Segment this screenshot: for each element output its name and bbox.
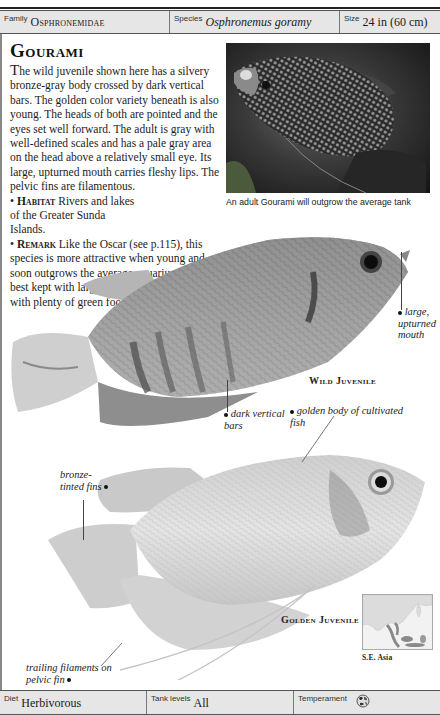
annotation-mouth: large, upturned mouth [398, 306, 440, 341]
tank-levels-label: Tank levels [151, 694, 191, 703]
size-label: Size [344, 14, 360, 23]
annotation-dot [67, 678, 71, 682]
left-rule [0, 10, 2, 715]
tank-levels-value: All [194, 696, 209, 711]
species-info-bar: Family Osphronemidae Species Osphronemus… [0, 10, 440, 34]
care-info-bar: Diet Herbivorous Tank levels All Tempera… [0, 690, 440, 715]
species-cell: Species Osphronemus goramy [170, 11, 340, 33]
temperament-mixed-icon [356, 694, 370, 708]
intro-paragraph: The wild juvenile shown here has a silve… [10, 63, 222, 194]
family-label: Family [4, 14, 28, 23]
habitat-heading: Habitat [17, 195, 55, 207]
annotation-bronze-fins: bronze-tinted fins [60, 469, 110, 492]
golden-juvenile-label: Golden Juvenile [281, 614, 359, 626]
annotation-dot [224, 413, 228, 417]
family-cell: Family Osphronemidae [0, 11, 170, 33]
photo-caption: An adult Gourami will outgrow the averag… [226, 197, 436, 207]
annotation-dot [290, 410, 294, 414]
fins-leader-line [83, 500, 84, 540]
diet-cell: Diet Herbivorous [0, 691, 147, 714]
diet-label: Diet [4, 694, 18, 703]
page-title: Gourami [10, 40, 84, 62]
habitat-paragraph: • Habitat Rivers and lakes of the Greate… [10, 194, 138, 237]
intro-text: he wild juvenile shown here has a silver… [10, 65, 219, 192]
encyclopedia-page: Family Osphronemidae Species Osphronemus… [0, 0, 440, 715]
adult-gourami-photo [226, 43, 430, 193]
size-cell: Size 24 in (60 cm) [340, 11, 440, 33]
family-value: Osphronemidae [31, 15, 105, 30]
mouth-leader-line [401, 252, 402, 310]
dropcap: T [10, 62, 19, 78]
temperament-label: Temperament [298, 694, 347, 703]
top-rule [0, 7, 440, 9]
bullet: • [10, 195, 14, 207]
wild-juvenile-label: Wild Juvenile [309, 375, 376, 387]
annotation-dot [398, 311, 402, 315]
filament-leader-line [98, 640, 128, 670]
distribution-map [362, 594, 433, 650]
annotation-dot [104, 485, 108, 489]
asia-map-graphic [363, 595, 432, 649]
tank-levels-cell: Tank levels All [147, 691, 294, 714]
wild-juvenile-fish-illustration [8, 232, 438, 432]
species-value: Osphronemus goramy [205, 15, 311, 30]
temperament-cell: Temperament [294, 691, 440, 714]
map-region-label: S.E. Asia [362, 653, 392, 662]
diet-value: Herbivorous [21, 696, 81, 711]
golden-body-leader-line [300, 414, 340, 464]
adult-fish-graphic [226, 43, 430, 193]
species-label: Species [174, 14, 202, 23]
size-value: 24 in (60 cm) [363, 15, 428, 30]
